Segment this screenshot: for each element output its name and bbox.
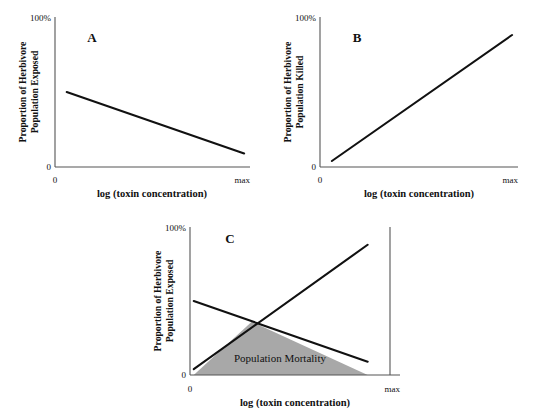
population-mortality-label: Population Mortality (234, 352, 326, 364)
panel-a-xtick-min: 0 (53, 175, 58, 185)
panel-b-ytick-bottom: 0 (312, 162, 317, 172)
panel-c-ytick-top: 100% (165, 223, 187, 233)
panel-a-xtick-max: max (235, 175, 251, 185)
panel-a-ytick-top: 100% (30, 13, 52, 23)
panel-a-exposed-line (67, 92, 244, 154)
panel-c-xtick-min: 0 (188, 384, 193, 394)
panel-b: 100% 0 0 max log (toxin concentration) P… (265, 0, 539, 200)
panel-a-letter: A (87, 30, 97, 45)
panel-c-letter: C (225, 231, 234, 246)
panel-c: 100% 0 0 max log (toxin concentration) P… (130, 205, 420, 415)
panel-a-x-axis-title: log (toxin concentration) (97, 188, 208, 200)
panel-c-xtick-max: max (385, 384, 401, 394)
panel-b-plot: 100% 0 0 max log (toxin concentration) P… (265, 0, 539, 200)
panel-b-x-axis-title: log (toxin concentration) (364, 188, 475, 200)
panel-c-y-axis-title-line2: Population Exposed (164, 259, 175, 342)
panel-b-y-axis-title-line2: Population Killed (294, 55, 305, 129)
panel-a-ytick-bottom: 0 (47, 162, 52, 172)
figure-panels: 100% 0 0 max log (toxin concentration) P… (0, 0, 539, 415)
panel-b-y-axis-title-line1: Proportion of Herbivore (282, 41, 293, 143)
panel-b-xtick-max: max (503, 175, 519, 185)
panel-c-x-axis-title: log (toxin concentration) (240, 397, 351, 409)
panel-b-ytick-top: 100% (295, 13, 317, 23)
panel-c-y-axis-title-line1: Proportion of Herbivore (152, 250, 163, 352)
population-mortality-area (194, 322, 368, 375)
panel-b-killed-line (332, 35, 512, 161)
panel-a: 100% 0 0 max log (toxin concentration) P… (0, 0, 270, 200)
panel-b-xtick-min: 0 (318, 175, 323, 185)
panel-a-y-axis-title-line1: Proportion of Herbivore (17, 41, 28, 143)
panel-b-letter: B (353, 30, 362, 45)
panel-c-plot: 100% 0 0 max log (toxin concentration) P… (130, 205, 420, 415)
panel-a-plot: 100% 0 0 max log (toxin concentration) P… (0, 0, 270, 200)
panel-a-y-axis-title-line2: Population Exposed (29, 50, 40, 133)
panel-c-ytick-bottom: 0 (182, 370, 187, 380)
